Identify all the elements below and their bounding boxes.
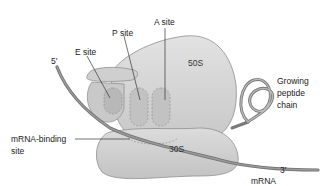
label-growing-peptide-2: peptide <box>277 88 305 98</box>
a-site-region <box>152 88 170 126</box>
label-3-prime: 3′ <box>280 165 287 175</box>
label-e-site: E site <box>75 47 97 57</box>
label-mrna-binding-1: mRNA-binding <box>11 134 67 144</box>
growing-peptide-chain <box>232 79 273 128</box>
label-5-prime: 5′ <box>51 56 58 66</box>
label-mrna: mRNA <box>251 176 276 186</box>
p-site-region <box>130 88 148 126</box>
small-subunit-30s <box>96 128 238 179</box>
label-mrna-binding-2: site <box>11 146 25 156</box>
label-30s: 30S <box>169 144 184 154</box>
label-growing-peptide-1: Growing <box>277 76 309 86</box>
label-p-site: P site <box>112 28 133 38</box>
label-growing-peptide-3: chain <box>277 100 298 110</box>
ribosome-diagram: 5′ E site P site A site 50S 30S Growing … <box>0 0 324 186</box>
label-50s: 50S <box>188 58 203 68</box>
label-a-site: A site <box>154 17 175 27</box>
